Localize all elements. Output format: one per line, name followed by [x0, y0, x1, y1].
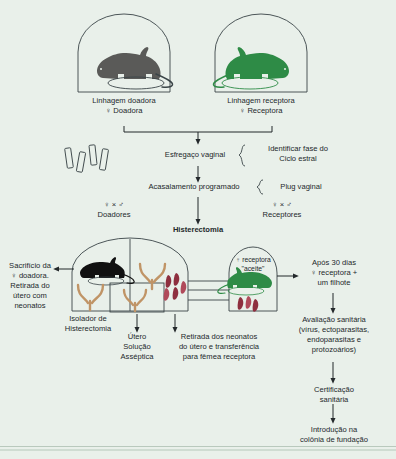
neonates-icon-recipient: [238, 296, 259, 312]
uterus-line1: Útero: [112, 333, 162, 342]
after30-line1: Após 30 dias: [290, 259, 378, 268]
recipient-strain-label: Linhagem receptora: [209, 97, 313, 106]
diagram-canvas: Linhagem doadora ♀ Doadora Linhagem rece…: [0, 0, 396, 459]
sacrifice-line3: Retirada do: [2, 282, 58, 291]
estral-phase-line2: Ciclo estral: [248, 155, 348, 164]
vaginal-plug-label: Plug vaginal: [266, 183, 336, 192]
transfer-line3: para fêmea receptora: [163, 353, 275, 362]
recipients-symbols: ♀ × ♂: [246, 201, 318, 210]
certification-line1: Certificação: [290, 386, 378, 395]
sanitary-eval-line3: endoparasitas e: [278, 336, 390, 345]
donor-female-label: ♀ Doadora: [72, 107, 176, 116]
isolator-tunnel: [188, 281, 229, 300]
programmed-mating-label: Acasalamento programado: [128, 183, 260, 192]
isolator-donor-mouse-icon: [80, 257, 134, 285]
bottom-divider: [0, 446, 396, 447]
recipient-mouse-icon: [213, 47, 289, 89]
transfer-line2: do útero e transferência: [163, 343, 275, 352]
uterus-icon-right: [140, 264, 165, 289]
accepts-line2: "aceite": [224, 265, 282, 273]
donors-label: Doadores: [78, 211, 150, 220]
donor-cage-outline: [78, 14, 170, 92]
uterus-line2: Solução: [112, 343, 162, 352]
sanitary-eval-line4: protozoários): [278, 346, 390, 355]
isolator-down-arrows: [137, 314, 175, 330]
accepts-line1: ♀ receptora: [224, 256, 282, 264]
sacrifice-line5: neonatos: [2, 302, 58, 311]
donors-symbols: ♀ × ♂: [78, 201, 150, 210]
neonates-icon-isolator: [164, 273, 187, 301]
sanitary-eval-line2: (vírus, ectoparasitas,: [278, 326, 390, 335]
donor-mouse-icon: [97, 47, 173, 89]
recipients-label: Receptores: [246, 211, 318, 220]
sanitary-eval-line1: Avaliação sanitária: [278, 316, 390, 325]
introduction-line2: colônia de fundação: [282, 436, 386, 445]
microscope-slides-icon: [65, 145, 109, 173]
sacrifice-line4: útero com: [2, 292, 58, 301]
sacrifice-line1: Sacrifício da: [2, 262, 58, 271]
uterus-line3: Asséptica: [112, 353, 162, 362]
uterus-icon-left: [78, 285, 103, 310]
introduction-line1: Introdução na: [282, 426, 386, 435]
after30-line3: um filhote: [290, 279, 378, 288]
recipient-female-label: ♀ Receptora: [209, 107, 313, 116]
after30-line2: ♀ receptora +: [290, 269, 378, 278]
uterus-icon-center: [124, 290, 146, 311]
donor-strain-label: Linhagem doadora: [72, 97, 176, 106]
sacrifice-line2: ♀ doadora.: [2, 272, 58, 281]
isolator-caption-line1: Isolador de: [52, 315, 124, 324]
transfer-line1: Retirada dos neonatos: [163, 333, 275, 342]
recipient-cage-outline: [215, 14, 307, 92]
vaginal-smear-label: Esfregaço vaginal: [148, 151, 242, 160]
bottom-divider-secondary: [0, 449, 396, 451]
estral-phase-line1: Identificar fase do: [248, 145, 348, 154]
certification-line2: sanitária: [290, 396, 378, 405]
hysterectomy-title: Histerectomia: [152, 226, 244, 235]
top-join-connector: [124, 126, 272, 142]
